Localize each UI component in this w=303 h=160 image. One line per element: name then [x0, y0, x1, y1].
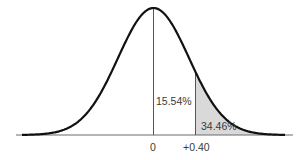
- between-percent-label: 15.54%: [156, 96, 192, 107]
- tail-percent-label: 34.46%: [201, 121, 237, 132]
- tick-label-z: +0.40: [183, 142, 210, 153]
- normal-curve-chart: [0, 0, 303, 160]
- tick-label-zero: 0: [150, 142, 156, 153]
